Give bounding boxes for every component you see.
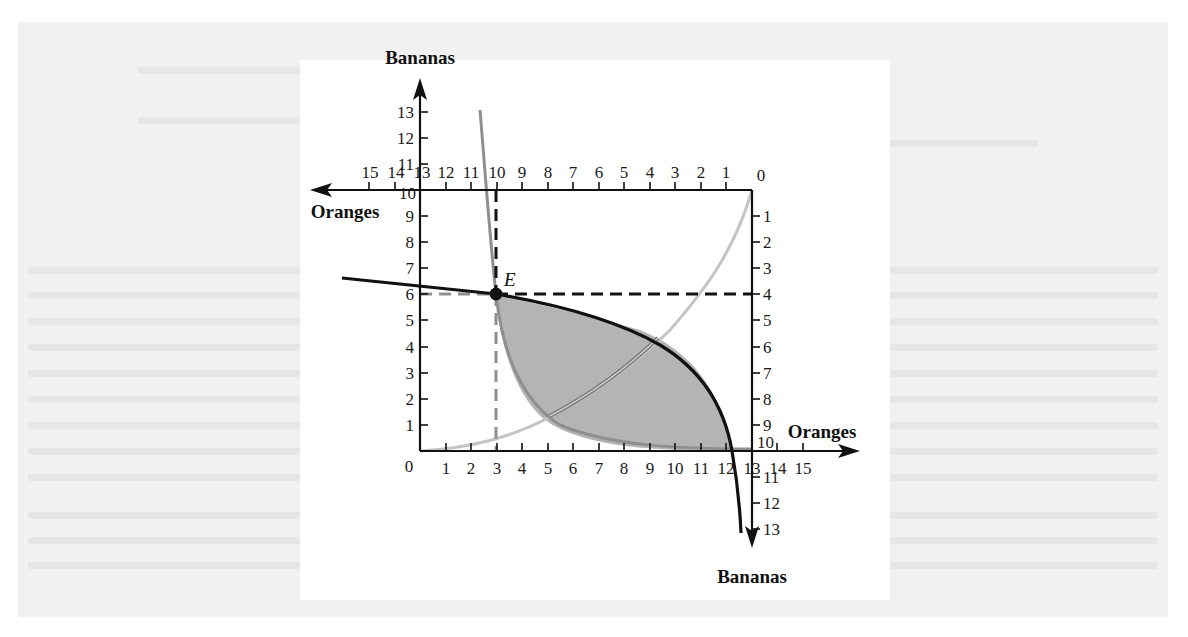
svg-text:8: 8 — [406, 233, 415, 252]
right-axis-title: Bananas — [717, 566, 787, 587]
svg-text:14: 14 — [388, 163, 406, 182]
origin-b-label: 0 — [757, 166, 766, 185]
edgeworth-box-figure: 1 2 3 4 5 6 7 8 9 10 11 12 13 14 15 0 1 … — [0, 0, 1188, 637]
endowment-point-label: E — [503, 269, 516, 290]
svg-text:8: 8 — [544, 163, 553, 182]
svg-text:12: 12 — [438, 163, 455, 182]
svg-text:1: 1 — [722, 163, 731, 182]
svg-text:7: 7 — [595, 459, 604, 478]
svg-text:1: 1 — [406, 416, 415, 435]
svg-text:9: 9 — [646, 459, 655, 478]
svg-text:11: 11 — [463, 163, 479, 182]
bottom-axis-title: Oranges — [788, 421, 857, 442]
svg-text:5: 5 — [763, 311, 772, 330]
svg-text:10: 10 — [757, 433, 774, 452]
svg-text:11: 11 — [763, 468, 779, 487]
svg-text:13: 13 — [744, 459, 761, 478]
svg-text:12: 12 — [397, 129, 414, 148]
svg-text:8: 8 — [620, 459, 629, 478]
svg-text:3: 3 — [493, 459, 502, 478]
svg-text:2: 2 — [697, 163, 706, 182]
svg-text:15: 15 — [362, 163, 379, 182]
svg-text:2: 2 — [763, 233, 772, 252]
svg-text:10: 10 — [399, 184, 416, 203]
svg-text:5: 5 — [406, 311, 415, 330]
origin-a-label: 0 — [405, 457, 414, 476]
top-axis-title: Oranges — [311, 201, 380, 222]
svg-text:9: 9 — [518, 163, 527, 182]
svg-text:5: 5 — [544, 459, 553, 478]
svg-text:3: 3 — [763, 259, 772, 278]
svg-text:7: 7 — [763, 364, 772, 383]
left-axis-title: Bananas — [385, 47, 455, 68]
svg-text:6: 6 — [595, 163, 604, 182]
svg-text:8: 8 — [763, 390, 772, 409]
svg-text:15: 15 — [795, 459, 812, 478]
svg-text:7: 7 — [406, 259, 415, 278]
svg-text:4: 4 — [406, 338, 415, 357]
svg-text:5: 5 — [620, 163, 629, 182]
svg-text:2: 2 — [406, 390, 415, 409]
svg-text:7: 7 — [569, 163, 578, 182]
svg-text:13: 13 — [397, 103, 414, 122]
top-axis-tick-labels: 1 2 3 4 5 6 7 8 9 10 11 12 13 14 15 — [362, 163, 731, 182]
svg-text:1: 1 — [763, 207, 772, 226]
svg-text:3: 3 — [671, 163, 680, 182]
svg-text:11: 11 — [693, 459, 709, 478]
svg-text:6: 6 — [406, 285, 415, 304]
bottom-axis-tick-labels: 1 2 3 4 5 6 7 8 9 10 11 12 13 14 15 — [442, 459, 812, 478]
svg-text:13: 13 — [414, 163, 431, 182]
svg-text:4: 4 — [763, 285, 772, 304]
svg-text:12: 12 — [718, 459, 735, 478]
svg-text:6: 6 — [569, 459, 578, 478]
svg-text:6: 6 — [763, 338, 772, 357]
svg-text:10: 10 — [489, 163, 506, 182]
endowment-point-e — [490, 288, 503, 301]
svg-text:9: 9 — [406, 207, 415, 226]
svg-text:13: 13 — [763, 520, 780, 539]
svg-text:1: 1 — [442, 459, 451, 478]
svg-text:3: 3 — [406, 364, 415, 383]
svg-text:12: 12 — [763, 494, 780, 513]
svg-text:10: 10 — [667, 459, 684, 478]
svg-text:4: 4 — [518, 459, 527, 478]
svg-text:2: 2 — [467, 459, 476, 478]
svg-text:4: 4 — [646, 163, 655, 182]
